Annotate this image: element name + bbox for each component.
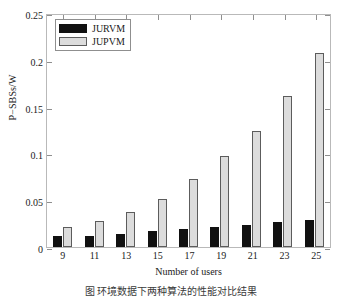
bar-jupvm-9 [63,227,72,247]
bar-group [305,15,324,247]
bar-jurvm-15 [148,231,157,247]
bar-group [273,15,292,247]
y-axis-tick-label: 0.1 [31,150,44,161]
x-axis-tick-label: 19 [216,250,226,261]
chart-legend: JURVMJUPVM [55,19,131,51]
bar-jupvm-21 [252,131,261,247]
y-axis-label: P−SBSs/W [7,48,18,148]
bar-jupvm-23 [283,96,292,247]
bar-jurvm-25 [305,220,314,247]
x-axis-tick-label: 23 [280,250,290,261]
bar-group [242,15,261,247]
plot-area: 00.050.10.150.20.25 91113151719212325 JU… [46,14,331,248]
legend-swatch-icon [59,24,87,33]
legend-label: JUPVM [92,36,125,47]
bar-jurvm-23 [273,222,282,247]
bar-jupvm-13 [126,212,135,247]
y-axis-tick-label: 0 [38,244,43,255]
x-axis-tick-label: 21 [248,250,258,261]
bar-jupvm-11 [95,221,104,247]
bar-jurvm-9 [53,236,62,247]
bar-jurvm-17 [179,229,188,247]
x-axis-tick-label: 17 [185,250,195,261]
x-axis-tick-label: 11 [90,250,100,261]
x-axis-tick-label: 25 [311,250,321,261]
x-axis-tick-label: 15 [153,250,163,261]
bar-jurvm-13 [116,234,125,247]
bar-jupvm-19 [220,156,229,247]
bar-jupvm-15 [158,199,167,247]
bar-group [179,15,198,247]
x-axis-label: Number of users [46,266,331,277]
bar-group [210,15,229,247]
y-axis-tick-label: 0.25 [26,10,44,21]
bar-group [148,15,167,247]
y-axis-tick-label: 0.2 [31,56,44,67]
bar-jurvm-19 [210,227,219,247]
y-axis-tick-label: 0.15 [26,103,44,114]
legend-swatch-icon [59,37,87,46]
legend-item-jurvm[interactable]: JURVM [59,22,125,35]
legend-label: JURVM [92,23,125,34]
figure-caption: 图 环境数据下两种算法的性能对比结果 [0,283,342,298]
bar-jupvm-25 [315,53,324,247]
x-axis-tick-label: 9 [60,250,65,261]
y-axis-tick-label: 0.05 [26,197,44,208]
y-axis-tick [47,249,52,250]
bar-jupvm-17 [189,179,198,247]
legend-item-jupvm[interactable]: JUPVM [59,35,125,48]
bar-jurvm-21 [242,225,251,247]
x-axis-tick-label: 13 [121,250,131,261]
y-axis-tick [325,249,330,250]
bar-jurvm-11 [85,236,94,247]
